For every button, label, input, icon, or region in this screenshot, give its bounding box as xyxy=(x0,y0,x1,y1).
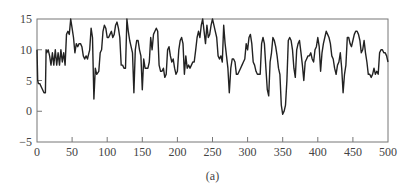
x-tick-label: 500 xyxy=(379,145,397,159)
figure-caption: (a) xyxy=(206,169,219,183)
x-tick-label: 100 xyxy=(98,145,116,159)
plot-frame xyxy=(37,19,388,142)
data-line xyxy=(37,19,388,114)
x-tick-label: 300 xyxy=(239,145,257,159)
y-axis: −5051015 xyxy=(19,12,42,149)
x-axis: 050100150200250300350400450500 xyxy=(34,137,397,159)
y-tick-label: 5 xyxy=(26,74,32,88)
x-tick-label: 150 xyxy=(133,145,151,159)
y-tick-label: 15 xyxy=(20,12,32,26)
x-tick-label: 450 xyxy=(344,145,362,159)
x-tick-label: 50 xyxy=(66,145,78,159)
x-tick-label: 200 xyxy=(168,145,186,159)
x-tick-label: 400 xyxy=(309,145,327,159)
x-tick-label: 0 xyxy=(34,145,40,159)
line-chart: 050100150200250300350400450500 −5051015 … xyxy=(0,0,414,191)
y-tick-label: −5 xyxy=(19,135,32,149)
axes-box xyxy=(37,19,388,142)
y-tick-label: 10 xyxy=(20,43,32,57)
x-tick-label: 350 xyxy=(274,145,292,159)
y-tick-label: 0 xyxy=(26,104,32,118)
x-tick-label: 250 xyxy=(204,145,222,159)
